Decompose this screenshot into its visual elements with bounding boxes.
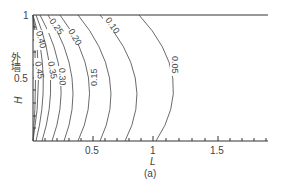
contour-figure: 1 0.5 0.5 1 1.5 L (a) H 外墙 0.45 0.40 0.3… bbox=[0, 0, 281, 191]
y-tick-0-5: 0.5 bbox=[14, 73, 28, 84]
x-tick-1: 1 bbox=[150, 145, 156, 156]
x-axis-label: L bbox=[150, 156, 156, 167]
svg-text:0.15: 0.15 bbox=[89, 68, 99, 86]
svg-text:0.30: 0.30 bbox=[57, 68, 68, 86]
outer-wall-label: 外墙 bbox=[10, 52, 21, 73]
contour-0-05 bbox=[139, 15, 173, 141]
x-tick-0-5: 0.5 bbox=[85, 145, 99, 156]
y-axis-label: H bbox=[13, 96, 24, 104]
svg-text:0.05: 0.05 bbox=[170, 56, 180, 74]
contour-0-10 bbox=[100, 15, 137, 141]
x-tick-1-5: 1.5 bbox=[210, 145, 224, 156]
y-tick-1: 1 bbox=[23, 10, 29, 21]
figure-caption: (a) bbox=[144, 168, 156, 179]
